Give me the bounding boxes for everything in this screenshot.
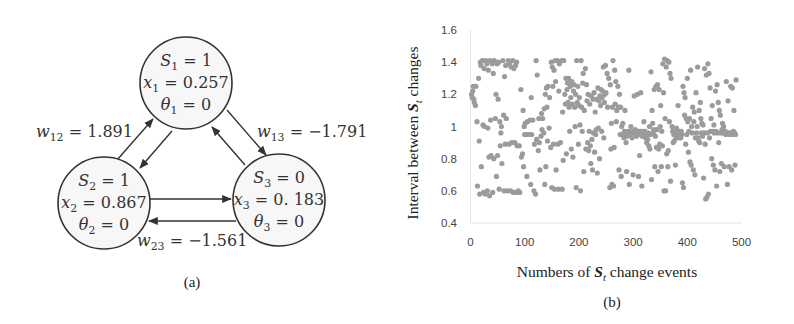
data-point	[694, 130, 699, 135]
data-point	[558, 140, 563, 145]
data-point	[624, 140, 629, 145]
data-point	[693, 90, 698, 95]
data-point	[567, 129, 572, 134]
data-point	[663, 116, 668, 121]
data-point	[597, 156, 602, 161]
data-point	[543, 92, 548, 97]
data-point	[474, 119, 479, 124]
y-tick-1: 1	[451, 121, 457, 133]
data-point	[689, 124, 694, 129]
data-point	[498, 130, 503, 135]
weight-label-23: w23 = −1.561	[137, 231, 247, 253]
data-point	[477, 138, 482, 143]
data-point	[680, 84, 685, 89]
data-point	[733, 132, 738, 137]
data-point	[579, 58, 584, 63]
data-point	[582, 108, 587, 113]
data-point	[698, 116, 703, 121]
data-point	[706, 71, 711, 76]
data-point	[673, 163, 678, 168]
data-point	[556, 89, 561, 94]
data-point	[714, 183, 719, 188]
data-point	[708, 85, 713, 90]
data-point	[725, 182, 730, 187]
data-point	[514, 60, 519, 65]
data-point	[524, 174, 529, 179]
data-point	[648, 69, 653, 74]
data-point	[653, 134, 658, 139]
data-point	[730, 85, 735, 90]
data-point	[533, 192, 538, 197]
data-point	[666, 60, 671, 65]
data-point	[588, 143, 593, 148]
node-1: S1 = 1x1 = 0.257θ1 = 0	[140, 37, 232, 129]
data-point	[485, 126, 490, 131]
data-point	[701, 175, 706, 180]
data-point	[687, 116, 692, 121]
data-point	[729, 167, 734, 172]
data-point	[612, 68, 617, 73]
data-point	[593, 109, 598, 114]
data-point	[580, 129, 585, 134]
data-point	[645, 137, 650, 142]
data-point	[581, 71, 586, 76]
data-point	[518, 87, 523, 92]
data-point	[569, 146, 574, 151]
y-tick-1.6: 1.6	[441, 24, 457, 36]
data-point	[724, 79, 729, 84]
data-point	[716, 100, 721, 105]
data-point	[618, 105, 623, 110]
data-point	[683, 95, 688, 100]
data-point	[734, 77, 739, 82]
data-point	[638, 90, 643, 95]
data-point	[497, 119, 502, 124]
data-point	[655, 82, 660, 87]
data-point	[722, 164, 727, 169]
data-point	[695, 124, 700, 129]
data-point	[560, 187, 565, 192]
data-point	[490, 190, 495, 195]
data-point	[529, 132, 534, 137]
data-point	[542, 182, 547, 187]
data-point	[637, 153, 642, 158]
data-point	[595, 171, 600, 176]
data-point	[692, 172, 697, 177]
data-point	[668, 76, 673, 81]
y-tick-1.4: 1.4	[441, 56, 458, 68]
data-point	[561, 158, 566, 163]
data-point	[588, 161, 593, 166]
data-point	[584, 82, 589, 87]
data-point	[601, 135, 606, 140]
data-point	[589, 137, 594, 142]
data-point	[470, 89, 475, 94]
data-point	[534, 58, 539, 63]
data-point	[529, 95, 534, 100]
data-point	[639, 183, 644, 188]
data-point	[532, 142, 537, 147]
node-1-line-1: S1 = 1	[160, 51, 212, 73]
data-point	[592, 90, 597, 95]
data-point	[617, 92, 622, 97]
data-point	[606, 76, 611, 81]
data-point	[535, 72, 540, 77]
data-point	[592, 150, 597, 155]
data-point	[616, 167, 621, 172]
data-point	[495, 153, 500, 158]
data-point	[710, 103, 715, 108]
data-point	[713, 89, 718, 94]
data-point	[502, 74, 507, 79]
data-point	[668, 179, 673, 184]
arrow-1-to-2	[140, 131, 172, 168]
data-point	[499, 124, 504, 129]
data-point	[711, 163, 716, 168]
data-point	[725, 98, 730, 103]
data-point	[631, 172, 636, 177]
data-point	[528, 182, 533, 187]
data-point	[575, 84, 580, 89]
scatter-points	[469, 56, 739, 201]
data-point	[667, 119, 672, 124]
data-point	[685, 76, 690, 81]
data-point	[692, 109, 697, 114]
data-point	[681, 185, 686, 190]
data-point	[577, 122, 582, 127]
